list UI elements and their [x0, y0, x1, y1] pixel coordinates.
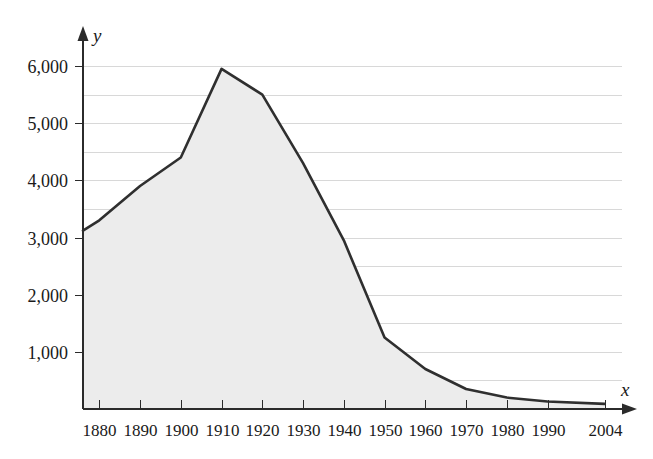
y-tick-label: 4,000	[28, 171, 69, 191]
x-tick-label: 1880	[83, 421, 117, 440]
x-tick-label: 1950	[369, 421, 403, 440]
x-axis-tick-labels: 1880189019001910192019301940195019601970…	[83, 421, 624, 440]
x-tick-label: 1960	[409, 421, 443, 440]
x-tick-label: 1930	[287, 421, 321, 440]
x-tick-label: 1970	[450, 421, 484, 440]
x-axis-label: x	[620, 379, 630, 400]
chart-container: 1,0002,0003,0004,0005,0006,000 188018901…	[0, 0, 653, 459]
x-tick-label: 2004	[589, 421, 624, 440]
y-axis-label: y	[91, 25, 102, 46]
x-tick-label: 1890	[124, 421, 158, 440]
y-tick-label: 1,000	[28, 343, 69, 363]
y-tick-label: 3,000	[28, 229, 69, 249]
y-tick-label: 6,000	[28, 57, 69, 77]
x-tick-label: 1920	[246, 421, 280, 440]
x-tick-label: 1940	[328, 421, 362, 440]
y-tick-label: 5,000	[28, 114, 69, 134]
x-tick-label: 1910	[206, 421, 240, 440]
x-tick-label: 1900	[165, 421, 199, 440]
y-tick-label: 2,000	[28, 286, 69, 306]
x-tick-label: 1990	[532, 421, 566, 440]
area-chart: 1,0002,0003,0004,0005,0006,000 188018901…	[0, 0, 653, 459]
x-tick-label: 1980	[491, 421, 525, 440]
